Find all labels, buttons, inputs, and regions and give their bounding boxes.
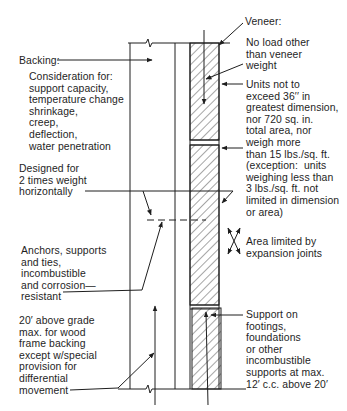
units-label: Units not to exceed 36′′ in greatest dim…: [246, 79, 339, 218]
backing-title: Backing:: [19, 55, 60, 67]
veneer-description: No load other than veneer weight: [246, 37, 310, 72]
veneer-title: Veneer:: [245, 16, 282, 28]
backing-considerations: Consideration for: support capacity, tem…: [29, 71, 124, 152]
veneer-leader: [219, 23, 243, 45]
veneer-units: [190, 43, 221, 389]
designed-label: Designed for 2 times weight horizontally: [19, 163, 87, 198]
anchors-label: Anchors, supports and ties, incombustibl…: [21, 245, 106, 303]
bottom-break-line: [118, 385, 246, 393]
expansion-label: Area limited by expansion joints: [246, 236, 322, 259]
crossed-arrows-icon: [228, 228, 240, 254]
support-label: Support on footings, foundations or othe…: [246, 309, 328, 390]
height-limit-label: 20′ above grade max. for wood frame back…: [19, 315, 97, 396]
